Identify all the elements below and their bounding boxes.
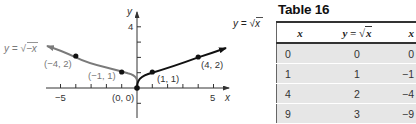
header-x-neg: x [391, 22, 416, 43]
table-16: Table 16 x y = √x x 0 0 0 1 1 −1 4 2 [276, 2, 416, 124]
x-axis-label: x [224, 92, 231, 103]
table-row: 0 0 0 [277, 43, 416, 64]
point-1-1 [150, 69, 155, 74]
y-ticks [137, 27, 141, 104]
header-x: x [277, 22, 324, 43]
svg-text:y = √−x: y = √−x [3, 43, 38, 54]
y-tick-label-4: 4 [128, 21, 133, 32]
equation-label-sqrt-x: y = √x [232, 18, 263, 30]
table-header-row: x y = √x x [277, 22, 416, 43]
point-neg1-1 [119, 69, 124, 74]
table-row: 9 3 −9 [277, 104, 416, 124]
equation-label-sqrt-neg-x: y = √−x [3, 43, 38, 55]
point-label-1-1: (1, 1) [157, 73, 179, 84]
square-root-graph: −5 5 4 x y (0, 0) (1, 1) (4, 2) (−1, 1) … [0, 0, 270, 123]
header-y-sqrt-x: y = √x [323, 22, 391, 43]
values-table: x y = √x x 0 0 0 1 1 −1 4 2 −4 9 [276, 21, 416, 124]
point-0-0 [134, 85, 140, 91]
table-title: Table 16 [278, 2, 416, 17]
x-tick-label-5: 5 [210, 92, 215, 103]
point-label-neg1-1: (−1, 1) [88, 70, 116, 81]
point-neg4-2 [73, 53, 78, 58]
point-label-neg4-2: (−4, 2) [44, 58, 72, 69]
y-axis-label: y [126, 6, 133, 17]
point-label-0-0: (0, 0) [112, 92, 134, 103]
point-label-4-2: (4, 2) [201, 59, 223, 70]
table-row: 4 2 −4 [277, 84, 416, 104]
svg-text:y = √x: y = √x [232, 18, 261, 29]
x-tick-label-neg5: −5 [55, 92, 66, 103]
table-row: 1 1 −1 [277, 64, 416, 84]
